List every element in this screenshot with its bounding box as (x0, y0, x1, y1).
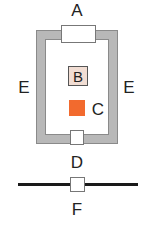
label-e-right: E (123, 79, 134, 96)
label-c: C (92, 101, 104, 118)
label-e-left: E (18, 79, 29, 96)
box-f (70, 177, 85, 192)
label-a: A (71, 2, 82, 19)
rectangular-frame (37, 31, 117, 143)
box-b: B (68, 66, 88, 86)
label-d: D (71, 154, 83, 171)
box-d (70, 130, 84, 145)
label-f: F (72, 201, 82, 218)
label-b: B (73, 68, 83, 85)
square-c (69, 100, 85, 116)
box-a (61, 25, 96, 43)
